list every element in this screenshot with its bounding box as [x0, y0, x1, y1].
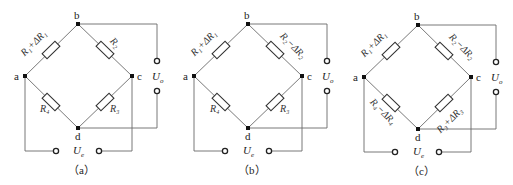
panel-caption: （a） [68, 165, 95, 176]
supply-terminal-right [436, 149, 441, 154]
node-label-c: c [137, 71, 142, 82]
node-label-d: d [415, 132, 421, 143]
resistor-label-r4: R₄ [40, 104, 50, 114]
node-label-a: a [183, 71, 188, 82]
supply-terminal-right [266, 148, 271, 153]
output-voltage-label: Uo [152, 71, 163, 85]
output-terminal-bottom [154, 88, 159, 93]
node-label-c: c [307, 71, 312, 82]
bridge-circuit [171, 0, 342, 185]
output-voltage-label: Uo [491, 72, 502, 86]
supply-voltage-label: Ue [413, 146, 424, 160]
resistor-label-r3: R₃ [280, 104, 290, 114]
bridge-panel-a: b a c d R₁+ΔR₁ R₂ R₃ R₄ Uo Ue （a） [0, 0, 171, 185]
supply-terminal-left [392, 149, 397, 154]
node-label-b: b [414, 11, 420, 22]
supply-terminal-left [53, 148, 58, 153]
supply-terminal-right [96, 148, 101, 153]
output-terminal-top [324, 58, 329, 63]
bridge-panel-b: b a c d R₁+ΔR₁ R₂−ΔR₂ R₃ R₄ Uo Ue （b） [171, 0, 342, 185]
node-label-b: b [74, 10, 80, 21]
output-terminal-bottom [493, 89, 498, 94]
node-label-b: b [244, 10, 250, 21]
bridge-circuit [342, 0, 513, 185]
resistor-r1 [42, 41, 60, 59]
resistor-r1 [212, 41, 230, 59]
bridge-panel-c: b a c d R₁+ΔR₁ R₂−ΔR₂ R₃+ΔR₃ R₄−ΔR₄ Uo U… [342, 0, 513, 185]
supply-voltage-label: Ue [73, 145, 84, 159]
output-voltage-label: Uo [322, 71, 333, 85]
node-label-a: a [14, 71, 19, 82]
output-terminal-top [493, 59, 498, 64]
panel-caption: （c） [408, 166, 435, 177]
resistor-r3 [435, 94, 453, 112]
bridge-circuit [0, 0, 171, 185]
resistor-label-r3: R₃ [110, 104, 120, 114]
panel-caption: （b） [238, 165, 266, 176]
output-terminal-bottom [324, 88, 329, 93]
resistor-label-r4: R₄ [210, 104, 220, 114]
output-terminal-top [154, 58, 159, 63]
supply-voltage-label: Ue [243, 145, 254, 159]
supply-terminal-left [222, 148, 227, 153]
resistor-r1 [382, 42, 400, 60]
node-label-a: a [353, 72, 358, 83]
resistor-r2 [266, 41, 284, 59]
node-label-c: c [476, 72, 481, 83]
node-label-d: d [245, 131, 251, 142]
resistor-r2 [435, 42, 453, 60]
node-label-d: d [75, 131, 81, 142]
